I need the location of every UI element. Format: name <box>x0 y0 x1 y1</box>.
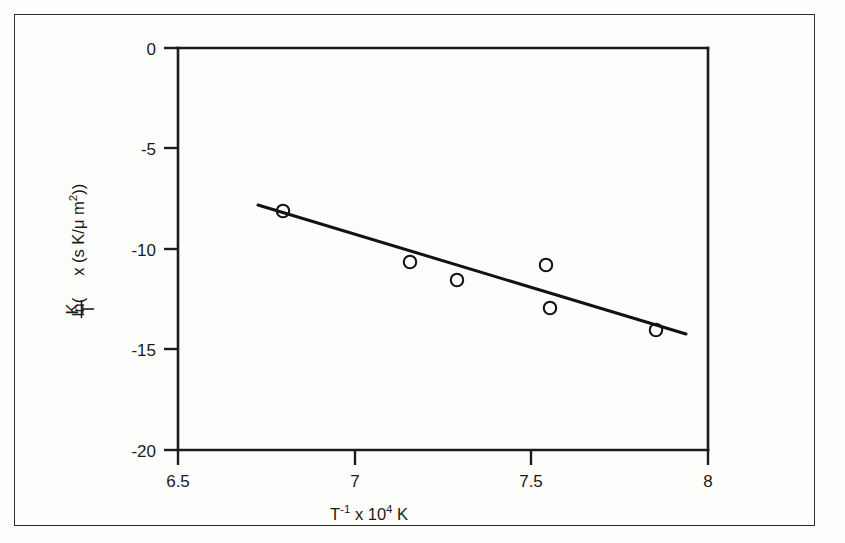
data-point <box>544 302 556 314</box>
y-tick-label-m5: -5 <box>141 140 156 159</box>
x-axis-title-middle: x 10 <box>350 505 386 523</box>
linear-fit-line <box>258 205 686 334</box>
y-axis-fraction-denominator: T <box>79 304 97 314</box>
x-axis-ticks <box>178 450 708 465</box>
x-axis-title-exponent-1: -1 <box>340 503 350 515</box>
x-tick-label-8: 8 <box>703 472 712 491</box>
y-axis-title-suffix: )) <box>69 184 87 195</box>
x-tick-labels: 6.5 7 7.5 8 <box>166 472 713 491</box>
y-axis-ticks <box>164 48 178 450</box>
y-axis-title-middle: x (s K/μ m <box>69 201 87 276</box>
plot-axes <box>178 48 708 450</box>
svg-text:T-1 x 104 K: T-1 x 104 K <box>330 503 408 523</box>
svg-text:ln(x (s K/μ m2)): ln(x (s K/μ m2)) <box>67 184 87 316</box>
y-tick-label-0: 0 <box>147 40 156 59</box>
data-point <box>451 274 463 286</box>
data-point <box>540 259 552 271</box>
x-axis-title-base: T <box>330 505 340 523</box>
data-points <box>277 205 662 336</box>
y-axis-title: ln(x (s K/μ m2)) K T <box>63 184 97 318</box>
x-tick-label-6p5: 6.5 <box>166 472 190 491</box>
x-axis-title: T-1 x 104 K <box>330 503 408 523</box>
y-tick-labels: 0 -5 -10 -15 -20 <box>131 40 156 461</box>
figure-root: 0 -5 -10 -15 -20 6.5 7 7.5 8 T-1 x 1 <box>0 0 845 543</box>
arrhenius-plot: 0 -5 -10 -15 -20 6.5 7 7.5 8 T-1 x 1 <box>0 0 845 543</box>
x-tick-label-7: 7 <box>350 472 359 491</box>
x-tick-label-7p5: 7.5 <box>519 472 543 491</box>
y-tick-label-m20: -20 <box>131 442 156 461</box>
y-tick-label-m15: -15 <box>131 341 156 360</box>
y-tick-label-m10: -10 <box>131 241 156 260</box>
x-axis-title-unit: K <box>393 505 409 523</box>
data-point <box>404 256 416 268</box>
